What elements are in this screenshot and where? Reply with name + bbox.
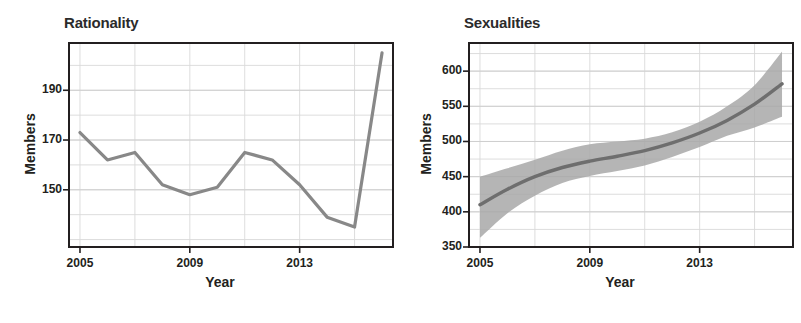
x-tick-label-2005: 2005 bbox=[450, 256, 510, 270]
x-tick-label-2009: 2009 bbox=[160, 256, 220, 270]
y-tick-label-550: 550 bbox=[402, 98, 462, 112]
y-tick-label-600: 600 bbox=[402, 63, 462, 77]
figure-two-panel-line-charts: Rationality Members Year 150 170 190 200… bbox=[0, 0, 801, 323]
y-tick-label-170: 170 bbox=[8, 132, 62, 146]
x-tick-label-2013: 2013 bbox=[270, 256, 330, 270]
x-tick-label-2013: 2013 bbox=[670, 256, 730, 270]
panel-title-rationality: Rationality bbox=[64, 14, 138, 31]
x-tick-label-2005: 2005 bbox=[50, 256, 110, 270]
y-tick-label-190: 190 bbox=[8, 82, 62, 96]
x-tick-label-2009: 2009 bbox=[560, 256, 620, 270]
y-tick-label-450: 450 bbox=[402, 169, 462, 183]
x-axis-title-sexualities: Year bbox=[580, 274, 660, 290]
panel-rationality: Rationality Members Year 150 170 190 200… bbox=[0, 0, 400, 323]
y-tick-label-150: 150 bbox=[8, 182, 62, 196]
panel-title-sexualities: Sexualities bbox=[464, 14, 540, 31]
y-tick-label-350: 350 bbox=[402, 239, 462, 253]
x-axis-title-rationality: Year bbox=[180, 274, 260, 290]
y-tick-label-500: 500 bbox=[402, 133, 462, 147]
panel-sexualities: Sexualities Members Year 350 400 450 500… bbox=[400, 0, 801, 323]
y-tick-label-400: 400 bbox=[402, 204, 462, 218]
